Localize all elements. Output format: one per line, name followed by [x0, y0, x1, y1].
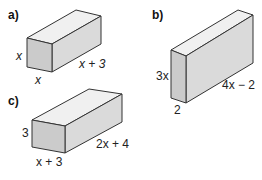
- box-c-length-label: 2x + 4: [96, 138, 129, 150]
- box-b-height-label: 3x: [156, 70, 169, 82]
- box-a-length-label: x + 3: [79, 58, 105, 70]
- box-c-height-label: 3: [22, 127, 29, 139]
- box-c-width-label: x + 3: [36, 156, 62, 168]
- box-b-length-label: 4x − 2: [222, 79, 255, 91]
- box-a-width-label: x: [35, 74, 41, 86]
- part-c-label: c): [8, 95, 19, 107]
- part-a-label: a): [8, 9, 19, 21]
- box-a-height-label: x: [16, 50, 22, 62]
- part-b-label: b): [152, 9, 163, 21]
- box-b-width-label: 2: [174, 104, 181, 116]
